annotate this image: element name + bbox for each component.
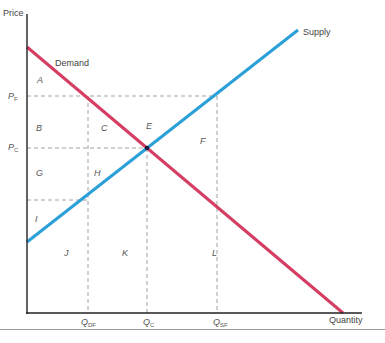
x-tick-qdf: QDF [81, 318, 96, 328]
region-j-label: J [64, 249, 69, 258]
x-tick-qc: QC [143, 318, 154, 328]
y-axis-label: Price [3, 9, 24, 18]
y-tick-pc: PC [8, 143, 18, 153]
region-i-label: I [35, 215, 38, 224]
bottom-divider [0, 329, 385, 330]
demand-label: Demand [55, 59, 89, 68]
y-tick-pf-sub: F [14, 96, 18, 102]
region-l-label: L [212, 249, 217, 258]
demand-curve [27, 47, 343, 313]
x-tick-qdf-main: Q [81, 317, 88, 327]
x-tick-qsf-sub: SF [220, 322, 228, 328]
x-axis-label: Quantity [329, 316, 363, 325]
supply-label: Supply [303, 28, 331, 37]
region-g-label: G [36, 169, 43, 178]
region-f-label: F [200, 137, 206, 146]
x-tick-qc-sub: C [150, 322, 154, 328]
x-tick-qsf: QSF [213, 318, 228, 328]
y-tick-pc-sub: C [14, 147, 18, 153]
region-k-label: K [122, 249, 128, 258]
region-e-label: E [146, 122, 152, 131]
equilibrium-point [145, 146, 149, 150]
region-h-label: H [94, 169, 101, 178]
y-tick-pf: PF [8, 92, 18, 102]
x-tick-qdf-sub: DF [88, 322, 96, 328]
region-b-label: B [36, 124, 42, 133]
supply-demand-chart [0, 0, 385, 343]
region-c-label: C [101, 124, 108, 133]
x-tick-qc-main: Q [143, 317, 150, 327]
x-tick-qsf-main: Q [213, 317, 220, 327]
region-a-label: A [37, 76, 43, 85]
